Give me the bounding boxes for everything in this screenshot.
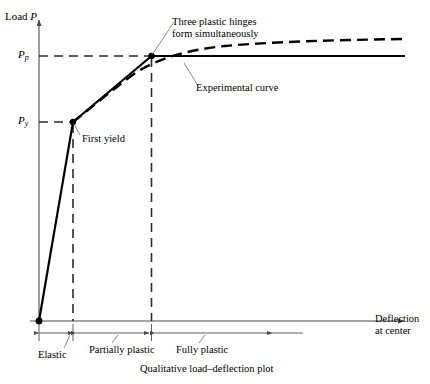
x-axis-label: Deflection at center [375,313,419,338]
y-tick-label-py: Py [18,114,28,128]
y-axis-label-text: Load [5,10,30,22]
figure-caption: Qualitative load–deflection plot [140,363,274,375]
annotation-plastic-hinges-line1: Three plastic hinges [172,16,259,28]
y-tick-py-symbol: P [18,114,25,126]
leader-line-plastic-hinges [152,22,174,55]
x-axis-label-line1: Deflection [375,313,419,325]
annotation-experimental-curve: Experimental curve [196,82,279,94]
origin-point-marker [36,318,43,325]
leader-line-partially-plastic [112,335,118,343]
leader-line-fully-plastic [199,335,205,343]
annotation-plastic-hinges: Three plastic hinges form simultaneously [172,16,259,41]
leader-line-elastic [64,335,70,348]
y-axis-label-symbol: P [30,10,37,22]
region-label-partially-plastic: Partially plastic [89,344,155,356]
y-tick-label-pp: Pp [18,48,29,62]
plot-canvas [0,0,430,384]
y-tick-pp-symbol: P [18,48,25,60]
y-tick-pp-subscript: p [25,53,29,62]
leader-line-experimental-curve [184,63,197,84]
region-label-fully-plastic: Fully plastic [176,344,228,356]
x-axis-label-line2: at center [375,325,419,337]
leader-line-first-yield [74,124,80,135]
region-label-elastic: Elastic [38,349,67,361]
load-deflection-figure: Load P Pp Py Three plastic hinges form s… [0,0,430,384]
annotation-first-yield: First yield [82,133,125,145]
plastic-hinge-point-marker [148,53,154,59]
y-tick-py-subscript: y [25,119,29,128]
y-axis-label: Load P [5,10,37,23]
idealized-curve [39,56,405,321]
annotation-plastic-hinges-line2: form simultaneously [172,28,259,40]
first-yield-point-marker [70,119,76,125]
